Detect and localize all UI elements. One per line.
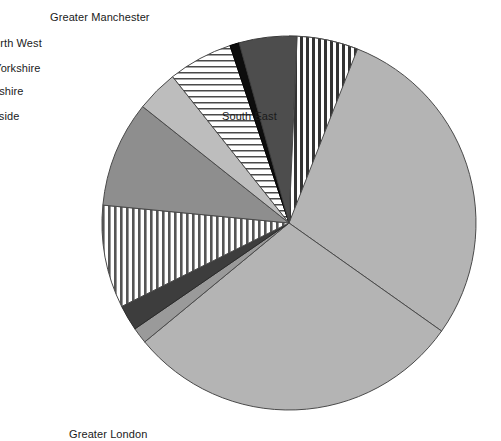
slice-label-west-yorkshire: West Yorkshire — [0, 62, 41, 75]
pie-chart-figure: Greater ManchesterNorth WestWest Yorkshi… — [0, 0, 501, 441]
pie-chart-canvas — [0, 0, 501, 441]
slice-label-yorkshire-humberside: Yorkshire & Humberside — [0, 110, 19, 123]
slice-label-north-west: North West — [0, 37, 42, 50]
slice-label-greater-manchester: Greater Manchester — [50, 11, 150, 24]
slice-label-south-yorkshire: South Yorkshire — [0, 85, 24, 98]
slice-label-south-east: South East — [222, 110, 277, 123]
slice-label-greater-london: Greater London — [69, 428, 147, 441]
pie-slices-group — [102, 36, 476, 410]
